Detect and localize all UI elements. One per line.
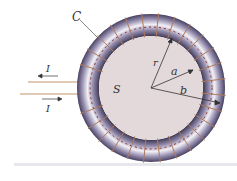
label-s: S [113,84,121,95]
label-r: r [153,58,158,68]
label-a: a [171,66,178,77]
label-current-bottom: I [46,104,50,114]
lead-wires [20,82,82,94]
c-pointer-line [80,20,98,38]
label-c: C [72,11,81,23]
bottom-rule [14,163,237,166]
current-arrows [38,74,62,101]
label-b: b [180,85,187,96]
label-current-top: I [46,64,50,74]
